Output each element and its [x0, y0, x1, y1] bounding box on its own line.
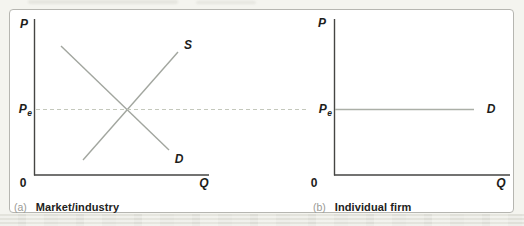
panel-a-supply-label: S — [184, 39, 192, 51]
panel-b-caption: (b) Individual firm — [313, 199, 411, 213]
panel-a-demand-curve — [61, 46, 169, 150]
panel-b-caption-tag: (b) — [313, 201, 326, 214]
panel-a-caption-tag: (a) — [14, 201, 27, 214]
panel-a-supply-curve — [83, 52, 178, 160]
panel-a-equilibrium-price-label: Pe — [10, 102, 32, 117]
scanned-page: P Pe S D 0 Q (a) Market/industry P Pe D … — [0, 0, 524, 226]
panel-a-price-axis-label: P — [20, 18, 28, 30]
panel-b-origin-label: 0 — [311, 177, 318, 189]
diagram-canvas — [10, 10, 513, 212]
panel-a-demand-label: D — [175, 153, 184, 165]
panel-a-caption-text: Market/industry — [36, 201, 119, 214]
panel-a-quantity-axis-label: Q — [199, 177, 208, 189]
figure-frame: P Pe S D 0 Q (a) Market/industry P Pe D … — [9, 9, 514, 213]
pe-base: P — [19, 102, 27, 116]
panel-a-origin-label: 0 — [20, 177, 27, 189]
panel-a-caption: (a) Market/industry — [14, 199, 119, 213]
panel-b-price-axis-label: P — [318, 17, 326, 29]
panel-b-demand-label: D — [487, 103, 496, 115]
pe-subscript: e — [327, 108, 332, 118]
panel-b-equilibrium-price-label: Pe — [310, 102, 332, 117]
panel-b-quantity-axis-label: Q — [496, 177, 505, 189]
pe-base: P — [319, 102, 327, 116]
scan-artifact — [28, 0, 178, 4]
scan-texture-strip — [0, 214, 524, 226]
pe-subscript: e — [27, 108, 32, 118]
panel-b-caption-text: Individual firm — [335, 201, 412, 214]
scan-artifact — [196, 1, 256, 4]
